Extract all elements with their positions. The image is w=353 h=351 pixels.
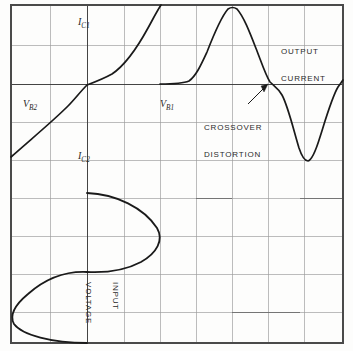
label-output-current: OUTPUT CURRENT xyxy=(281,30,326,102)
crossover-line-1: CROSSOVER xyxy=(204,124,262,133)
label-vb2: VB2 xyxy=(13,87,37,123)
label-input-voltage: INPUT VOLTAGE xyxy=(65,282,137,324)
output-current-line-2: CURRENT xyxy=(281,75,326,84)
label-crossover-distortion: CROSSOVER DISTORTION xyxy=(204,106,262,178)
crossover-leader xyxy=(248,84,268,104)
label-vb1: VB1 xyxy=(150,87,174,123)
crossover-line-2: DISTORTION xyxy=(204,151,262,160)
grid-emphasis-segments xyxy=(196,198,343,312)
leader-arrowhead xyxy=(261,84,268,92)
label-ic1: IC1 xyxy=(68,5,90,41)
crossover-distortion-figure: IC1 IC2 VB2 VB1 OUTPUT CURRENT CROSSOVER… xyxy=(0,0,353,351)
input-voltage-line-1: INPUT xyxy=(110,282,119,324)
output-current-line-1: OUTPUT xyxy=(281,48,326,57)
input-voltage-line-2: VOLTAGE xyxy=(83,282,92,324)
label-ic2: IC2 xyxy=(68,139,90,175)
